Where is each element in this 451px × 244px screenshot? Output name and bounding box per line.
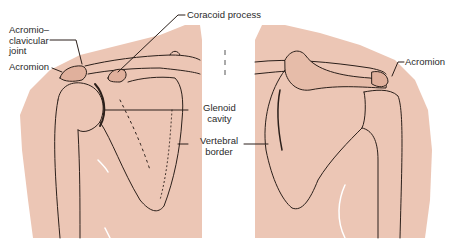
left-shoulder-silhouette [20, 25, 202, 238]
label-acromion-left: Acromion [9, 62, 49, 73]
glenoid-line-2: cavity [203, 114, 236, 125]
vertebral-line-1: Vertebral [200, 136, 238, 147]
ac-joint-line-1: Acromio– [9, 25, 49, 36]
label-glenoid-cavity: Glenoid cavity [203, 103, 236, 124]
glenoid-line-1: Glenoid [203, 103, 236, 114]
label-vertebral-border: Vertebral border [200, 136, 238, 157]
ac-joint-line-3: joint [9, 46, 49, 57]
vertebral-line-2: border [200, 147, 238, 158]
label-coracoid-process: Coracoid process [187, 10, 261, 21]
label-acromion-right: Acromion [405, 57, 445, 68]
label-acromioclavicular-joint: Acromio– clavicular joint [9, 25, 49, 57]
